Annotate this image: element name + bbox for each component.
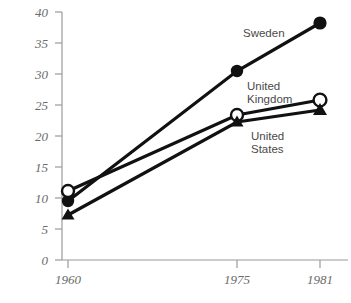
y-tick-label-30: 30 — [34, 67, 49, 82]
series-label-uk-line1: United — [247, 80, 280, 92]
y-tick-label-5: 5 — [42, 222, 49, 237]
series-sweden — [62, 16, 327, 207]
y-tick-label-0: 0 — [42, 253, 49, 268]
y-tick-label-15: 15 — [35, 160, 49, 175]
y-tick-marks — [55, 12, 62, 260]
series-united-states — [62, 103, 328, 220]
data-point-sweden-1981 — [313, 16, 326, 29]
line-chart: 40 35 30 25 20 15 10 5 0 1960 1975 1981 — [0, 0, 351, 303]
chart-canvas: 40 35 30 25 20 15 10 5 0 1960 1975 1981 — [0, 0, 351, 303]
y-tick-label-20: 20 — [35, 129, 49, 144]
y-tick-label-40: 40 — [35, 5, 49, 20]
y-tick-label-10: 10 — [35, 191, 49, 206]
x-tick-marks — [68, 260, 320, 268]
x-tick-label-1975: 1975 — [224, 272, 251, 287]
series-label-sweden: Sweden — [243, 27, 285, 39]
series-label-us-line2: States — [251, 143, 284, 155]
series-label-uk-line2: Kingdom — [247, 93, 292, 105]
y-tick-label-25: 25 — [35, 98, 49, 113]
series-label-us-line1: United — [251, 130, 284, 142]
series-us-line — [68, 110, 320, 215]
data-point-uk-1960 — [62, 185, 74, 197]
x-tick-label-1960: 1960 — [55, 272, 82, 287]
data-point-sweden-1975 — [231, 65, 243, 77]
y-tick-label-35: 35 — [34, 36, 49, 51]
x-tick-label-1981: 1981 — [307, 272, 333, 287]
